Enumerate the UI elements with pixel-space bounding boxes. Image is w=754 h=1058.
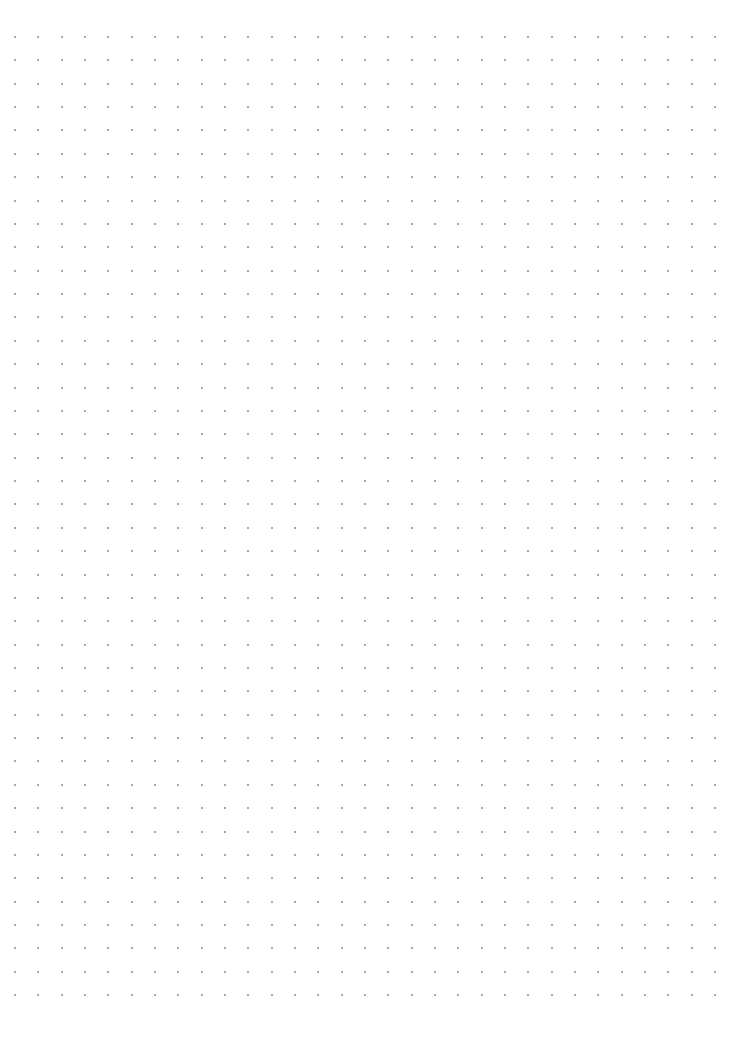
grid-dot: [551, 924, 553, 926]
grid-dot: [714, 246, 716, 248]
grid-dot: [387, 784, 389, 786]
grid-dot: [247, 83, 249, 85]
grid-dot: [714, 340, 716, 342]
grid-dot: [527, 714, 529, 716]
grid-dot: [107, 410, 109, 412]
grid-dot: [387, 714, 389, 716]
grid-dot: [84, 527, 86, 529]
grid-dot: [247, 246, 249, 248]
grid-dot: [691, 644, 693, 646]
grid-dot: [14, 387, 16, 389]
grid-dot: [714, 59, 716, 61]
grid-dot: [667, 153, 669, 155]
grid-dot: [154, 270, 156, 272]
grid-dot: [224, 340, 226, 342]
grid-dot: [131, 433, 133, 435]
grid-dot: [247, 714, 249, 716]
grid-dot: [434, 784, 436, 786]
grid-dot: [177, 316, 179, 318]
grid-dot: [714, 36, 716, 38]
grid-dot: [574, 947, 576, 949]
grid-dot: [504, 807, 506, 809]
grid-dot: [247, 994, 249, 996]
grid-dot: [131, 901, 133, 903]
grid-dot: [271, 714, 273, 716]
grid-dot: [247, 831, 249, 833]
grid-dot: [61, 457, 63, 459]
grid-dot: [434, 527, 436, 529]
grid-dot: [621, 527, 623, 529]
grid-dot: [154, 644, 156, 646]
grid-dot: [224, 854, 226, 856]
grid-dot: [201, 83, 203, 85]
grid-dot: [14, 901, 16, 903]
grid-dot: [551, 293, 553, 295]
grid-dot: [387, 737, 389, 739]
grid-dot: [597, 854, 599, 856]
grid-dot: [667, 550, 669, 552]
grid-dot: [551, 737, 553, 739]
grid-dot: [271, 36, 273, 38]
grid-dot: [481, 129, 483, 131]
grid-dot: [107, 59, 109, 61]
grid-dot: [294, 153, 296, 155]
grid-dot: [527, 129, 529, 131]
grid-dot: [504, 106, 506, 108]
grid-dot: [411, 807, 413, 809]
grid-dot: [271, 994, 273, 996]
grid-dot: [84, 690, 86, 692]
grid-dot: [457, 994, 459, 996]
grid-dot: [527, 223, 529, 225]
grid-dot: [551, 106, 553, 108]
grid-dot: [341, 176, 343, 178]
grid-dot: [37, 574, 39, 576]
grid-dot: [341, 457, 343, 459]
grid-dot: [177, 901, 179, 903]
grid-dot: [504, 246, 506, 248]
grid-dot: [14, 270, 16, 272]
grid-dot: [621, 106, 623, 108]
grid-dot: [621, 480, 623, 482]
grid-dot: [177, 59, 179, 61]
grid-dot: [84, 433, 86, 435]
grid-dot: [434, 270, 436, 272]
grid-dot: [411, 363, 413, 365]
grid-dot: [714, 223, 716, 225]
grid-dot: [294, 854, 296, 856]
grid-dot: [457, 316, 459, 318]
grid-dot: [364, 270, 366, 272]
grid-dot: [61, 387, 63, 389]
grid-dot: [247, 503, 249, 505]
grid-dot: [551, 223, 553, 225]
grid-dot: [551, 363, 553, 365]
grid-dot: [37, 176, 39, 178]
grid-dot: [14, 994, 16, 996]
grid-dot: [84, 620, 86, 622]
grid-dot: [177, 246, 179, 248]
grid-dot: [271, 246, 273, 248]
grid-dot: [411, 644, 413, 646]
grid-dot: [714, 714, 716, 716]
grid-dot: [644, 223, 646, 225]
grid-dot: [247, 387, 249, 389]
grid-dot: [364, 293, 366, 295]
grid-dot: [61, 877, 63, 879]
grid-dot: [597, 153, 599, 155]
grid-dot: [131, 200, 133, 202]
grid-dot: [597, 760, 599, 762]
grid-dot: [574, 784, 576, 786]
grid-dot: [37, 59, 39, 61]
grid-dot: [271, 457, 273, 459]
grid-dot: [294, 714, 296, 716]
grid-dot: [84, 83, 86, 85]
grid-dot: [107, 550, 109, 552]
grid-dot: [61, 36, 63, 38]
grid-dot: [364, 387, 366, 389]
grid-dot: [411, 550, 413, 552]
grid-dot: [387, 854, 389, 856]
grid-dot: [504, 59, 506, 61]
grid-dot: [131, 410, 133, 412]
grid-dot: [551, 59, 553, 61]
grid-dot: [551, 153, 553, 155]
grid-dot: [37, 129, 39, 131]
